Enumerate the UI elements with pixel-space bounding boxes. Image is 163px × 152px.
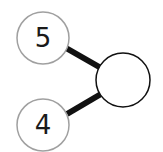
number-bond-diagram: 5 4 <box>0 0 163 152</box>
connector-bottom <box>67 94 101 114</box>
part-label-bottom: 4 <box>35 110 52 140</box>
whole-circle[interactable] <box>96 53 150 107</box>
connector-top <box>66 48 101 68</box>
part-label-top: 5 <box>35 23 52 53</box>
